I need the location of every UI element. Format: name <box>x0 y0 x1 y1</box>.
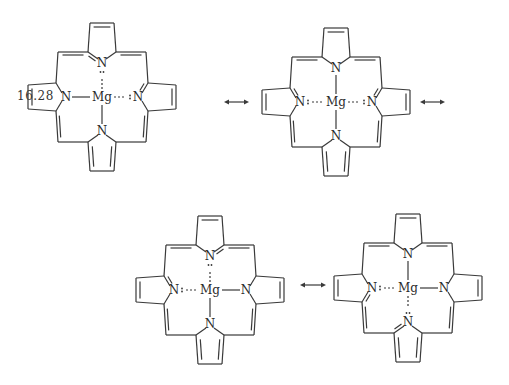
nitrogen-top: N <box>205 249 216 263</box>
nitrogen-left: N <box>61 90 72 104</box>
nitrogen-top: N <box>331 61 342 75</box>
magnesium-center: Mg <box>326 95 346 109</box>
porphyrin-structure-3: NNNNMg <box>136 216 284 364</box>
nitrogen-bottom: N <box>205 317 216 331</box>
porphyrin-structure-1: NNNNMg <box>28 23 176 171</box>
porphyrin-structure-2: NNNNMg <box>262 28 410 176</box>
nitrogen-left: N <box>169 283 180 297</box>
nitrogen-bottom: N <box>331 129 342 143</box>
nitrogen-right: N <box>439 281 450 295</box>
porphyrin-structures: NNNNMgNNNNMgNNNNMgNNNNMg <box>28 23 482 364</box>
resonance-diagram: NNNNMgNNNNMgNNNNMgNNNNMg <box>0 0 509 385</box>
resonance-arrow-icon <box>224 100 249 105</box>
nitrogen-top: N <box>97 56 108 70</box>
resonance-arrow-icon <box>300 283 326 288</box>
nitrogen-bottom: N <box>97 124 108 138</box>
magnesium-center: Mg <box>200 283 220 297</box>
nitrogen-bottom: N <box>403 315 414 329</box>
magnesium-center: Mg <box>398 281 418 295</box>
nitrogen-right: N <box>241 283 252 297</box>
nitrogen-left: N <box>367 281 378 295</box>
nitrogen-right: N <box>367 95 378 109</box>
nitrogen-right: N <box>133 90 144 104</box>
nitrogen-left: N <box>295 95 306 109</box>
nitrogen-top: N <box>403 247 414 261</box>
porphyrin-structure-4: NNNNMg <box>334 214 482 362</box>
magnesium-center: Mg <box>92 90 112 104</box>
resonance-arrow-icon <box>420 100 445 105</box>
